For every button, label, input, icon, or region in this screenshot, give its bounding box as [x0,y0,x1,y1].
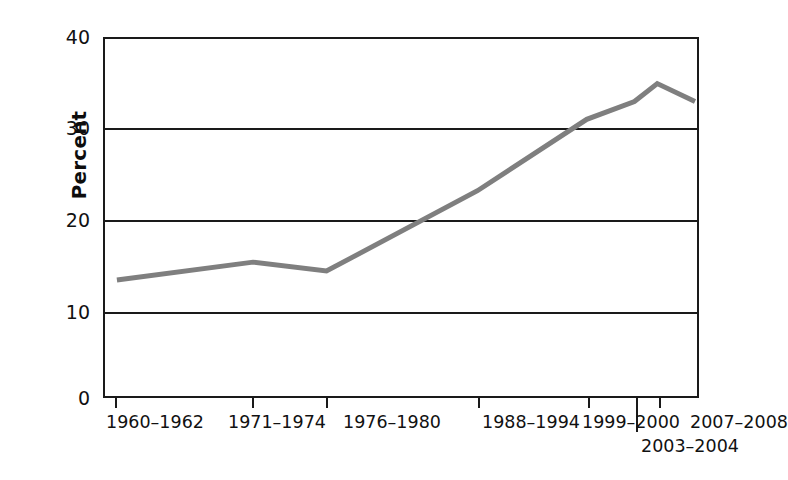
x-tick-1960-1962 [115,398,117,408]
x-tick-label-1960-1962: 1960–1962 [106,412,204,432]
x-tick-1999-2000 [588,398,590,408]
x-tick-2007-2008 [659,398,661,408]
x-tick-label-1976-1980: 1976–1980 [343,412,441,432]
y-tick-label-0: 0 [44,389,90,408]
x-tick-label-1971-1974: 1971–1974 [228,412,326,432]
y-tick-label-30: 30 [44,119,90,138]
x-tick-label-1988-1994: 1988–1994 [482,412,580,432]
y-tick-label-40: 40 [44,28,90,47]
x-tick-label-2007-2008: 2007–2008 [690,412,788,432]
y-axis-title: Percent [67,85,97,225]
plot-area [103,37,699,398]
y-tick-label-10: 10 [44,303,90,322]
series-line-percent [105,39,697,396]
x-tick-label-2003-2004: 2003–2004 [641,436,739,456]
x-tick-label-1999-2000: 1999–2000 [582,412,680,432]
x-tick-1976-1980 [326,398,328,408]
x-tick-1971-1974 [252,398,254,408]
y-tick-label-20: 20 [44,211,90,230]
x-tick-1988-1994 [478,398,480,408]
